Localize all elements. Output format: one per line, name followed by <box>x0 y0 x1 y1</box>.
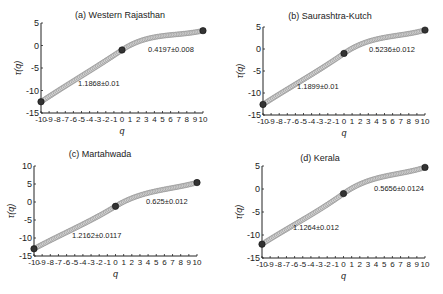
x-tick-label: 8 <box>407 117 412 126</box>
x-tick-label: -2 <box>324 117 332 126</box>
y-tick-label: -5 <box>252 207 260 217</box>
x-tick-label: 1 <box>121 258 126 267</box>
x-tick-label: 8 <box>178 258 183 267</box>
x-tick-label: -8 <box>47 258 55 267</box>
x-tick-label: 7 <box>398 117 403 126</box>
x-tick-label: -6 <box>63 258 71 267</box>
slope-annotation-left: 1.1264±0.012 <box>293 223 339 232</box>
slope-annotation-right: 0.4197±0.008 <box>148 45 194 54</box>
x-tick-label: -4 <box>79 258 87 267</box>
x-tick-label: 1 <box>349 260 354 269</box>
key-point-marker <box>194 179 200 185</box>
x-tick-label: 10 <box>193 258 202 267</box>
chart-title: (b) Saurashtra-Kutch <box>288 11 372 21</box>
x-tick-label: 5 <box>382 260 387 269</box>
x-tick-label: -1 <box>332 117 340 126</box>
x-tick-label: -2 <box>102 115 110 124</box>
x-tick-label: 5 <box>154 258 159 267</box>
x-tick-label: 4 <box>374 117 379 126</box>
y-axis-label: τ(q) <box>13 61 23 75</box>
chart-panel-b: (b) Saurashtra-Kutch50-5-10-15-10-9-8-7-… <box>235 11 430 138</box>
x-tick-label: 9 <box>415 260 420 269</box>
slope-annotation-left: 1.1899±0.01 <box>297 82 339 91</box>
x-tick-label: -3 <box>94 115 102 124</box>
chart-panel-a: (a) Western Rajasthan50-5-10-15-10-9-8-7… <box>13 10 208 136</box>
x-tick-label: 7 <box>176 115 181 124</box>
y-tick-label: 10 <box>22 161 32 171</box>
x-tick-label: -8 <box>276 117 284 126</box>
x-tick-label: -5 <box>71 258 79 267</box>
x-tick-label: -6 <box>292 117 300 126</box>
tau-curve <box>32 180 200 251</box>
x-tick-label: -1 <box>104 258 112 267</box>
key-point-marker <box>422 27 428 33</box>
x-tick-label: -4 <box>308 117 316 126</box>
x-tick-label: 0 <box>342 117 347 126</box>
key-point-marker <box>422 164 428 170</box>
x-tick-label: 10 <box>421 260 430 269</box>
x-tick-label: 1 <box>128 115 133 124</box>
x-tick-label: 3 <box>138 258 143 267</box>
x-tick-label: 6 <box>168 115 173 124</box>
x-tick-label: -5 <box>299 260 307 269</box>
x-tick-label: -9 <box>268 117 276 126</box>
chart-panel-c: (c) Martahwada1050-5-10-15-10-9-8-7-6-5-… <box>6 149 202 279</box>
key-point-marker <box>38 99 44 105</box>
x-tick-label: -7 <box>55 258 63 267</box>
x-tick-label: -5 <box>78 115 86 124</box>
x-tick-label: -3 <box>316 117 324 126</box>
y-tick-label: -10 <box>26 86 39 96</box>
x-tick-label: -6 <box>70 115 78 124</box>
x-tick-label: -4 <box>86 115 94 124</box>
slope-annotation-right: 0.5236±0.012 <box>369 45 415 54</box>
y-axis-label: τ(q) <box>6 204 16 218</box>
x-tick-label: 6 <box>390 260 395 269</box>
x-tick-label: -4 <box>307 260 315 269</box>
tau-curve <box>261 28 428 107</box>
x-tick-label: 9 <box>187 258 192 267</box>
x-tick-label: 1 <box>350 117 355 126</box>
y-tick-label: 5 <box>27 179 32 189</box>
x-tick-label: 8 <box>185 115 190 124</box>
x-tick-label: -9 <box>267 260 275 269</box>
x-tick-label: 0 <box>113 258 118 267</box>
x-tick-label: 9 <box>415 117 420 126</box>
x-tick-label: -2 <box>324 260 332 269</box>
x-tick-label: -7 <box>284 117 292 126</box>
slope-annotation-right: 0.625±0.012 <box>146 197 188 206</box>
x-tick-label: -3 <box>87 258 95 267</box>
x-axis-label: q <box>113 269 118 279</box>
x-tick-label: 2 <box>136 115 141 124</box>
tau-curve <box>260 165 428 247</box>
y-tick-label: -10 <box>19 233 32 243</box>
x-tick-label: 0 <box>120 115 125 124</box>
y-tick-label: 5 <box>256 22 261 32</box>
x-tick-label: 3 <box>144 115 149 124</box>
x-tick-label: -6 <box>291 260 299 269</box>
y-axis-label: τ(q) <box>234 205 244 219</box>
slope-annotation-left: 1.1868±0.01 <box>78 79 120 88</box>
x-tick-label: 4 <box>146 258 151 267</box>
y-tick-label: -10 <box>248 88 261 98</box>
x-tick-label: -1 <box>332 260 340 269</box>
x-tick-label: 2 <box>358 117 363 126</box>
x-tick-label: 3 <box>366 117 371 126</box>
y-axis-label: τ(q) <box>235 64 245 78</box>
x-axis-label: q <box>341 128 346 138</box>
x-tick-label: -9 <box>39 258 47 267</box>
x-tick-label: 2 <box>358 260 363 269</box>
x-tick-label: 5 <box>160 115 165 124</box>
y-tick-label: 5 <box>34 18 39 28</box>
key-point-marker <box>259 241 265 247</box>
x-tick-label: 8 <box>406 260 411 269</box>
x-tick-label: 0 <box>341 260 346 269</box>
key-point-marker <box>260 101 266 107</box>
y-tick-label: 0 <box>34 41 39 51</box>
x-tick-label: -3 <box>315 260 323 269</box>
chart-title: (a) Western Rajasthan <box>75 10 165 20</box>
x-axis-label: q <box>341 271 346 281</box>
x-tick-label: -7 <box>283 260 291 269</box>
key-point-marker <box>341 50 347 56</box>
x-tick-label: -5 <box>300 117 308 126</box>
x-tick-label: -8 <box>54 115 62 124</box>
